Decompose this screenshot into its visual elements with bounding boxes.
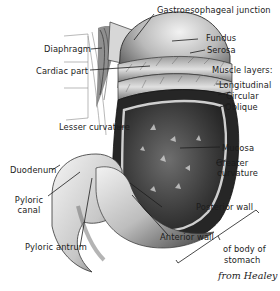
label-posterior-wall: Posterior wall: [196, 202, 253, 212]
label-body-of-stomach-line1: of body of: [223, 244, 266, 254]
label-greater-curvature-line2: curvature: [217, 168, 258, 178]
label-cardiac-part: Cardiac part: [36, 66, 88, 76]
label-pyloric-canal-line1: Pyloric: [13, 195, 45, 205]
label-pyloric-antrum: Pyloric antrum: [25, 242, 87, 252]
label-body-of-stomach-line2: stomach: [224, 255, 260, 265]
label-pyloric-canal-line2: canal: [13, 205, 45, 215]
label-lesser-curvature: Lesser curvature: [59, 122, 130, 132]
label-mucosa: Mucosa: [222, 143, 254, 153]
label-duodenum: Duodenum: [10, 165, 57, 175]
label-gastroesophageal-junction: Gastroesophageal junction: [157, 5, 271, 15]
label-serosa: Serosa: [207, 45, 236, 55]
label-diaphragm: Diaphragm: [44, 44, 91, 54]
label-fundus: Fundus: [206, 33, 236, 43]
stomach-diagram: Gastroesophageal junction Fundus Serosa …: [0, 0, 280, 291]
label-longitudinal: Longitudinal: [219, 80, 271, 90]
label-muscle-layers: Muscle layers:: [212, 65, 273, 75]
credit-text: from Healey: [218, 270, 277, 281]
label-circular: Circular: [226, 91, 259, 101]
label-greater-curvature-line1: Greater: [216, 158, 248, 168]
label-oblique: Oblique: [225, 102, 258, 112]
label-anterior-wall: Anterior wall: [160, 232, 214, 242]
